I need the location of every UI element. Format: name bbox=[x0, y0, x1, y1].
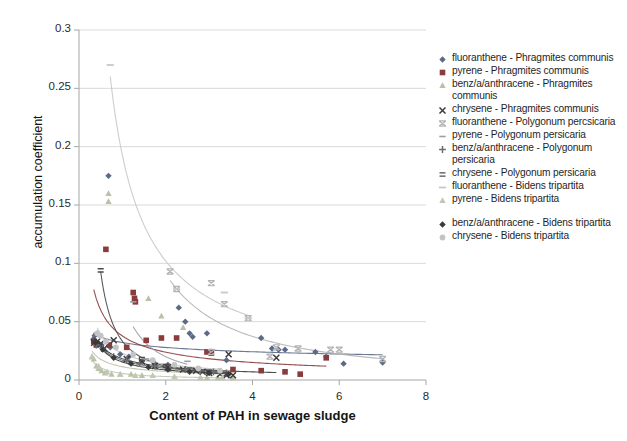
legend-marker-star-icon bbox=[436, 116, 449, 129]
legend-marker-none-icon bbox=[436, 129, 449, 142]
trendlines bbox=[92, 77, 383, 378]
x-tick-label: 6 bbox=[314, 390, 364, 402]
legend-marker-triangle-icon bbox=[436, 78, 449, 91]
legend-item[interactable]: benz/a/anthracene - Bidens tripartita bbox=[436, 217, 625, 230]
legend-item[interactable]: benz/a/anthracene - Polygonum persicaria bbox=[436, 142, 625, 167]
legend-item[interactable]: pyrene - Bidens tripartita bbox=[436, 193, 625, 206]
legend-item[interactable]: fluoranthene - Polygonum percsicaria bbox=[436, 116, 625, 129]
legend-item[interactable]: pyrene - Polygonum persicaria bbox=[436, 129, 625, 142]
legend-item-label: benz/a/anthracene - Polygonum persicaria bbox=[452, 142, 625, 167]
y-tick-label: 0.2 bbox=[17, 139, 71, 151]
legend-item-label: pyrene - Polygonum persicaria bbox=[452, 129, 586, 141]
series-4 bbox=[167, 269, 386, 362]
trendline-8 bbox=[110, 77, 248, 316]
series-8 bbox=[107, 65, 252, 318]
legend-item-label: chrysene - Phragmites communis bbox=[452, 103, 599, 115]
x-tick-label: 2 bbox=[141, 390, 191, 402]
legend-item-label: pyrene - Bidens tripartita bbox=[452, 193, 559, 205]
legend-item-label: fluoranthene - Bidens tripartita bbox=[452, 180, 584, 192]
y-axis-title: accumulation coefficient bbox=[31, 82, 45, 282]
chart-legend: fluoranthene - Phragmites communispyrene… bbox=[436, 52, 625, 243]
series-5 bbox=[130, 302, 191, 362]
y-tick-label: 0.3 bbox=[17, 22, 71, 34]
legend-item-label: pyrene - Phragmites communis bbox=[452, 65, 589, 77]
legend-marker-dash-icon bbox=[436, 180, 449, 193]
legend-marker-plus-icon bbox=[436, 142, 449, 155]
legend-marker-square-icon bbox=[436, 65, 449, 78]
x-tick-label: 4 bbox=[228, 390, 278, 402]
legend-item-label: fluoranthene - Phragmites communis bbox=[452, 52, 613, 64]
legend-item[interactable]: fluoranthene - Phragmites communis bbox=[436, 52, 625, 65]
legend-item[interactable]: chrysene - Phragmites communis bbox=[436, 103, 625, 116]
legend-marker-diamond-icon bbox=[436, 52, 449, 65]
gridlines bbox=[79, 30, 426, 380]
legend-item-label: chrysene - Bidens tripartita bbox=[452, 230, 569, 242]
y-tick-label: 0.15 bbox=[17, 197, 71, 209]
data-points bbox=[89, 65, 386, 380]
x-tick-label: 0 bbox=[54, 390, 104, 402]
legend-marker-equals-icon bbox=[436, 167, 449, 180]
x-axis-title: Content of PAH in sewage sludge bbox=[79, 408, 426, 423]
legend-item-label: benz/a/anthracene - Phragmites communis bbox=[452, 78, 625, 103]
legend-item[interactable]: chrysene - Bidens tripartita bbox=[436, 230, 625, 243]
chart-container: Content of PAH in sewage sludge accumula… bbox=[0, 0, 627, 441]
legend-marker-triangle-icon bbox=[436, 193, 449, 206]
legend-item-label: chrysene - Polygonum persicaria bbox=[452, 167, 596, 179]
legend-item[interactable]: pyrene - Phragmites communis bbox=[436, 65, 625, 78]
legend-marker-x-icon bbox=[436, 103, 449, 116]
legend-item-label: benz/a/anthracene - Bidens tripartita bbox=[452, 217, 611, 229]
y-tick-label: 0.05 bbox=[17, 314, 71, 326]
legend-marker-diamond-filled-icon bbox=[436, 217, 449, 230]
axis-lines bbox=[74, 30, 426, 385]
legend-item-label: fluoranthene - Polygonum percsicaria bbox=[452, 116, 615, 128]
legend-item[interactable]: chrysene - Polygonum persicaria bbox=[436, 167, 625, 180]
y-tick-label: 0.1 bbox=[17, 255, 71, 267]
x-tick-label: 8 bbox=[401, 390, 451, 402]
legend-marker-circle-icon bbox=[436, 230, 449, 243]
y-tick-label: 0.25 bbox=[17, 80, 71, 92]
legend-item[interactable]: benz/a/anthracene - Phragmites communis bbox=[436, 78, 625, 103]
legend-item[interactable]: fluoranthene - Bidens tripartita bbox=[436, 180, 625, 193]
y-tick-label: 0 bbox=[17, 372, 71, 384]
